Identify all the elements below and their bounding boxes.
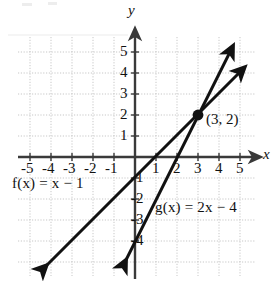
graph-figure: y x -5 -4 -3 -2 -1 1 2 3 4 5 5 4 3 2 1 -…	[0, 0, 276, 281]
x-tick--2: -2	[84, 161, 97, 176]
intersection-point-label: (3, 2)	[206, 112, 239, 127]
x-tick--4: -4	[42, 161, 55, 176]
x-tick-1: 1	[152, 161, 160, 176]
x-tick--1: -1	[105, 161, 118, 176]
x-tick-4: 4	[215, 161, 223, 176]
x-tick-2: 2	[173, 161, 181, 176]
y-tick-5: 5	[120, 44, 128, 59]
x-tick-5: 5	[236, 161, 244, 176]
y-tick-2: 2	[120, 107, 128, 122]
y-tick-4: 4	[120, 65, 128, 80]
intersection-point-marker	[193, 110, 204, 121]
y-axis-label: y	[128, 3, 135, 18]
x-tick-3: 3	[194, 161, 202, 176]
line-g-of-x	[125, 48, 232, 262]
y-tick-3: 3	[120, 86, 128, 101]
y-tick--3: -3	[131, 212, 144, 227]
y-tick-1: 1	[120, 128, 128, 143]
y-tick--2: -2	[131, 191, 144, 206]
f-equation-label: f(x) = x − 1	[12, 176, 84, 191]
x-tick--5: -5	[21, 161, 34, 176]
x-axis-label: x	[263, 147, 270, 162]
y-tick--1: -1	[131, 170, 144, 185]
y-tick--4: -4	[131, 233, 144, 248]
x-tick--3: -3	[63, 161, 76, 176]
g-equation-label: g(x) = 2x − 4	[155, 200, 237, 215]
